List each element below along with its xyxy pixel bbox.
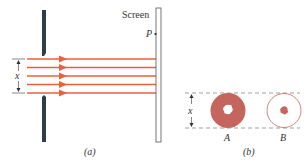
arrow-right-icon	[59, 73, 67, 80]
arrow-right-icon	[59, 64, 67, 71]
point-p-dot	[154, 33, 156, 35]
arrow-right-icon	[59, 90, 67, 97]
arrow-right-icon	[59, 56, 67, 63]
disk-b-label: B	[280, 132, 286, 143]
light-rays	[27, 59, 156, 93]
disk-a	[211, 93, 246, 128]
caption-a: (a)	[84, 146, 96, 158]
ray-arrowheads	[59, 56, 67, 97]
barrier-bottom	[42, 95, 46, 142]
dimension-label-b: x	[187, 105, 193, 116]
caption-b: (b)	[243, 146, 255, 158]
diffraction-diagram: x Screen P (a) x A B (b)	[0, 0, 306, 168]
point-p-label: P	[145, 28, 152, 39]
panel-a: x Screen P (a)	[12, 8, 161, 158]
arrow-right-icon	[59, 81, 67, 88]
screen-label: Screen	[122, 9, 149, 20]
disk-a-label: A	[223, 132, 231, 143]
disk-b	[267, 94, 301, 128]
screen	[156, 8, 161, 142]
barrier-top	[42, 10, 46, 56]
dimension-label-a: x	[14, 70, 20, 81]
panel-b: x A B (b)	[185, 93, 301, 158]
